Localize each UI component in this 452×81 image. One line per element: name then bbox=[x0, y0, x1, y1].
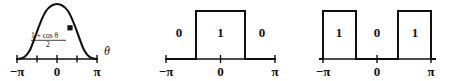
tick-label-zero: 0 bbox=[54, 64, 61, 79]
tick-label-minus-pi: −π bbox=[159, 64, 174, 79]
tick-label-pi: π bbox=[427, 64, 434, 79]
panel-raised-cosine: 1 + cos θ 2 −π 0 π θ bbox=[0, 0, 145, 81]
curve-point-marker bbox=[67, 25, 72, 30]
value-label-center: 0 bbox=[374, 25, 381, 40]
three-panel-figure: 1 + cos θ 2 −π 0 π θ bbox=[0, 0, 452, 81]
value-label-right: 0 bbox=[259, 25, 266, 40]
tick-label-minus-pi: −π bbox=[316, 64, 331, 79]
tick-label-zero: 0 bbox=[217, 64, 224, 79]
axis-variable-theta: θ bbox=[104, 44, 110, 58]
panel-single-pulse: 0 1 0 −π 0 π bbox=[145, 0, 303, 81]
curve-formula: 1 + cos θ 2 bbox=[31, 31, 66, 49]
panel-double-pulse: 1 0 1 −π 0 π bbox=[303, 0, 452, 81]
value-label-left: 0 bbox=[176, 25, 183, 40]
tick-label-pi: π bbox=[271, 64, 278, 79]
value-label-center: 1 bbox=[217, 25, 224, 40]
tick-label-zero: 0 bbox=[374, 64, 381, 79]
tick-label-minus-pi: −π bbox=[10, 64, 25, 79]
tick-label-pi: π bbox=[93, 64, 100, 79]
value-label-right: 1 bbox=[412, 25, 419, 40]
value-label-left: 1 bbox=[336, 25, 343, 40]
formula-numerator: 1 + cos θ bbox=[31, 31, 59, 40]
formula-denominator: 2 bbox=[46, 40, 50, 49]
